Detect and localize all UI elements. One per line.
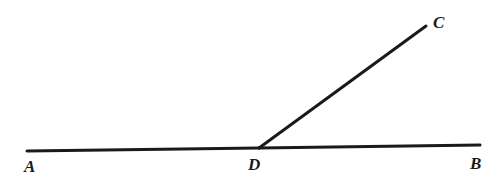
line-AB bbox=[27, 145, 480, 151]
point-label-b: B bbox=[470, 155, 482, 172]
ray-DC bbox=[259, 26, 426, 148]
point-label-a: A bbox=[24, 158, 36, 175]
point-label-d: D bbox=[248, 156, 260, 173]
point-label-c: C bbox=[433, 14, 445, 31]
angle-diagram-figure: A D B C bbox=[0, 0, 504, 195]
segment-DB bbox=[259, 145, 480, 148]
segment-AD bbox=[27, 148, 259, 151]
